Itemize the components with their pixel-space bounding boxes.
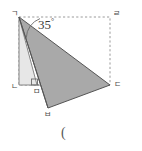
vertex-label-mieum: ㅁ bbox=[33, 88, 40, 96]
vertex-label-digeut: ㄷ bbox=[114, 81, 121, 89]
geometry-diagram-svg bbox=[0, 0, 142, 151]
vertex-label-bieup: ㅂ bbox=[44, 111, 51, 119]
figure-caption: ( bbox=[61, 126, 66, 140]
degree-symbol: ° bbox=[51, 17, 54, 26]
vertex-label-giyeok: ㄱ bbox=[11, 10, 18, 18]
angle-value: 35 bbox=[38, 17, 51, 32]
vertex-label-rieul: ㄹ bbox=[113, 10, 120, 18]
vertex-label-nieun: ㄴ bbox=[11, 83, 18, 91]
geometry-figure-container: ㄱ ㄹ ㄴ ㅁ ㄷ ㅂ 35° ( bbox=[0, 0, 142, 151]
angle-measure-label: 35° bbox=[38, 18, 54, 31]
